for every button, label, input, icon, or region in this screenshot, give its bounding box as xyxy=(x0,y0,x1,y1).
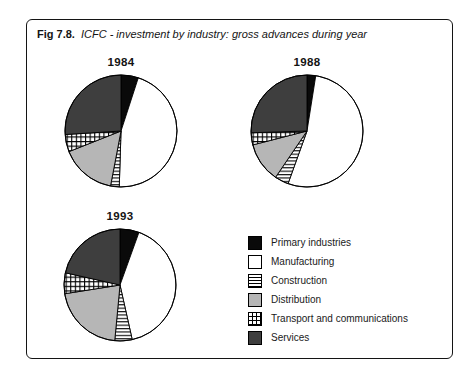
pie-title-1993: 1993 xyxy=(61,210,179,222)
legend-swatch-construction xyxy=(248,274,262,288)
legend-label-primary-industries: Primary industries xyxy=(271,237,351,248)
legend-label-construction: Construction xyxy=(271,275,327,286)
legend-item-services: Services xyxy=(248,328,408,347)
legend-item-distribution: Distribution xyxy=(248,290,408,309)
figure-title: ICFC - investment by industry: gross adv… xyxy=(81,28,367,40)
pie-chart-1988 xyxy=(248,72,366,190)
legend-item-construction: Construction xyxy=(248,271,408,290)
legend-label-services: Services xyxy=(271,332,309,343)
pie-svg-1993 xyxy=(61,226,179,344)
legend-label-distribution: Distribution xyxy=(271,294,321,305)
legend-item-manufacturing: Manufacturing xyxy=(248,252,408,271)
pie-chart-1993 xyxy=(61,226,179,344)
legend-swatch-transport-and-communications xyxy=(248,312,262,326)
legend-swatch-services xyxy=(248,331,262,345)
legend-swatch-distribution xyxy=(248,293,262,307)
legend-label-transport-and-communications: Transport and communications xyxy=(271,313,408,324)
pie-chart-1984 xyxy=(62,72,180,190)
pie-slice-1984-services xyxy=(65,75,121,135)
pie-svg-1984 xyxy=(62,72,180,190)
legend-item-primary-industries: Primary industries xyxy=(248,233,408,252)
figure-label: Fig 7.8. xyxy=(37,28,75,40)
pie-title-1984: 1984 xyxy=(62,56,180,68)
legend-swatch-primary-industries xyxy=(248,236,262,250)
pie-svg-1988 xyxy=(248,72,366,190)
legend-swatch-manufacturing xyxy=(248,255,262,269)
legend-label-manufacturing: Manufacturing xyxy=(271,256,334,267)
pie-slice-1988-services xyxy=(251,75,307,133)
page: Fig 7.8.ICFC - investment by industry: g… xyxy=(0,0,474,382)
pie-title-1988: 1988 xyxy=(248,56,366,68)
pie-slice-1993-distribution xyxy=(65,285,120,341)
figure-frame: Fig 7.8.ICFC - investment by industry: g… xyxy=(26,19,453,359)
figure-caption: Fig 7.8.ICFC - investment by industry: g… xyxy=(37,28,367,40)
legend: Primary industries Manufacturing Constru… xyxy=(248,233,408,347)
legend-item-transport-and-communications: Transport and communications xyxy=(248,309,408,328)
